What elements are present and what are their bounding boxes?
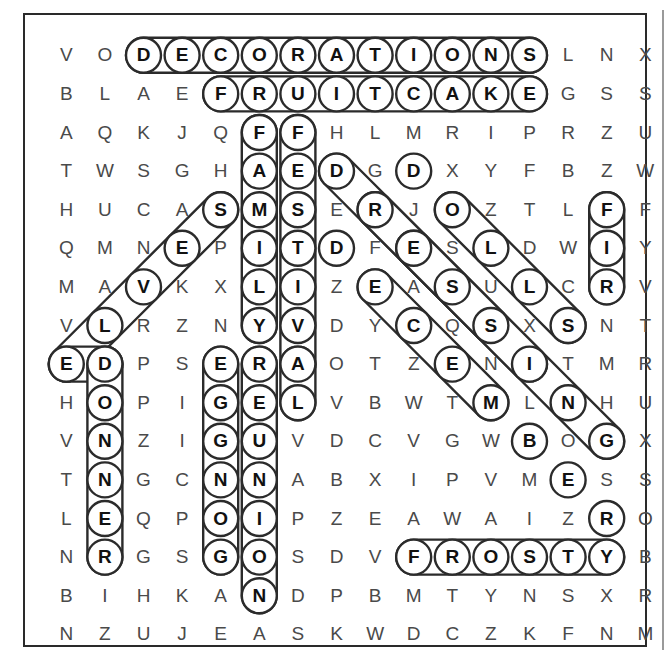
grid-cell: S xyxy=(549,307,587,345)
grid-cell: L xyxy=(279,384,317,422)
grid-cell: R xyxy=(86,538,124,576)
grid-cell: I xyxy=(163,422,201,460)
grid-cell: G xyxy=(549,75,587,113)
grid-cell: U xyxy=(125,615,163,653)
grid-cell: W xyxy=(626,152,664,190)
grid-cell: I xyxy=(395,36,433,74)
grid-cell: D xyxy=(86,345,124,383)
grid-cell: Z xyxy=(125,422,163,460)
grid-cell: S xyxy=(626,461,664,499)
grid-cell: R xyxy=(588,500,626,538)
grid-cell: M xyxy=(240,191,278,229)
grid-cell: F xyxy=(240,114,278,152)
grid-cell: E xyxy=(163,229,201,267)
grid-cell: L xyxy=(511,384,549,422)
grid-cell: G xyxy=(163,152,201,190)
grid-cell: G xyxy=(202,538,240,576)
grid-cell: B xyxy=(356,577,394,615)
grid-cell: L xyxy=(472,229,510,267)
grid-cell: X xyxy=(626,422,664,460)
grid-cell: E xyxy=(318,191,356,229)
grid-cell: O xyxy=(318,345,356,383)
grid-cell: A xyxy=(240,615,278,653)
grid-cell: W xyxy=(356,615,394,653)
grid-cell: I xyxy=(588,229,626,267)
grid-cell: T xyxy=(279,229,317,267)
grid-cell: T xyxy=(433,577,471,615)
grid-cell: V xyxy=(395,422,433,460)
grid-cell: B xyxy=(47,577,85,615)
grid-cell: R xyxy=(356,191,394,229)
grid-cell: S xyxy=(163,538,201,576)
grid-cell: V xyxy=(125,268,163,306)
grid-cell: F xyxy=(511,152,549,190)
grid-cell: N xyxy=(588,36,626,74)
grid-cell: V xyxy=(356,538,394,576)
grid-cell: G xyxy=(125,538,163,576)
grid-cell: Z xyxy=(588,114,626,152)
grid-cell: W xyxy=(433,500,471,538)
grid-cell: U xyxy=(86,191,124,229)
grid-cell: F xyxy=(549,615,587,653)
grid-cell: X xyxy=(626,36,664,74)
grid-cell: H xyxy=(47,191,85,229)
grid-cell: N xyxy=(511,577,549,615)
grid-cell: E xyxy=(202,615,240,653)
grid-cell: E xyxy=(356,268,394,306)
grid-cell: N xyxy=(202,461,240,499)
grid-cell: N xyxy=(125,229,163,267)
grid-cell: I xyxy=(395,461,433,499)
grid-cell: D xyxy=(395,152,433,190)
grid-cell: C xyxy=(433,615,471,653)
grid-cell: O xyxy=(433,191,471,229)
grid-cell: O xyxy=(549,422,587,460)
grid-cell: A xyxy=(163,191,201,229)
grid-cell: V xyxy=(318,384,356,422)
grid-cell: Y xyxy=(626,229,664,267)
grid-cell: I xyxy=(511,345,549,383)
grid-cell: E xyxy=(163,36,201,74)
grid-cell: U xyxy=(626,384,664,422)
grid-cell: F xyxy=(626,191,664,229)
grid-cell: N xyxy=(472,36,510,74)
grid-cell: W xyxy=(549,229,587,267)
grid-cell: G xyxy=(202,384,240,422)
grid-cell: V xyxy=(47,36,85,74)
grid-cell: S xyxy=(202,191,240,229)
grid-cell: E xyxy=(511,75,549,113)
grid-cell: A xyxy=(125,75,163,113)
grid-cell: F xyxy=(356,229,394,267)
grid-cell: U xyxy=(626,114,664,152)
grid-cell: R xyxy=(279,36,317,74)
grid-cell: S xyxy=(472,307,510,345)
grid-cell: O xyxy=(240,36,278,74)
grid-cell: X xyxy=(511,307,549,345)
grid-cell: E xyxy=(549,461,587,499)
grid-cell: N xyxy=(47,615,85,653)
grid-cell: A xyxy=(318,36,356,74)
grid-cell: A xyxy=(279,461,317,499)
grid-cell: X xyxy=(433,152,471,190)
grid-cell: R xyxy=(549,114,587,152)
grid-cell: G xyxy=(125,461,163,499)
grid-cell: M xyxy=(472,384,510,422)
grid-cell: S xyxy=(588,75,626,113)
grid-cell: T xyxy=(549,538,587,576)
grid-cell: I xyxy=(86,577,124,615)
page-edge-sliver xyxy=(662,10,664,650)
grid-cell: T xyxy=(433,384,471,422)
grid-cell: Q xyxy=(433,307,471,345)
grid-cell: N xyxy=(86,422,124,460)
grid-cell: Y xyxy=(356,307,394,345)
grid-cell: Z xyxy=(472,615,510,653)
grid-cell: S xyxy=(433,229,471,267)
grid-cell: O xyxy=(433,36,471,74)
grid-cell: P xyxy=(125,345,163,383)
grid-cell: O xyxy=(202,500,240,538)
grid-cell: E xyxy=(47,345,85,383)
grid-cell: X xyxy=(356,461,394,499)
grid-cell: X xyxy=(588,577,626,615)
grid-cell: P xyxy=(279,500,317,538)
grid-cell: D xyxy=(318,307,356,345)
grid-cell: G xyxy=(202,422,240,460)
